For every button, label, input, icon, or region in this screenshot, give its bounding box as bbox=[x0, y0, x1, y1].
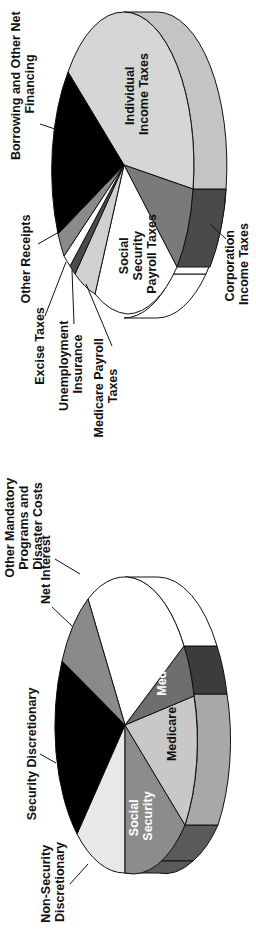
receipts-label-corporation: Corporation Income Taxes bbox=[223, 223, 251, 305]
receipts-label-unemployment: Unemployment Insurance bbox=[57, 317, 85, 411]
receipts-label-excise: Excise Taxes bbox=[33, 307, 47, 385]
outlays-label-non-security: Non-Security Discretionary bbox=[39, 841, 67, 922]
receipts-label-individual: Individual Income Taxes bbox=[123, 53, 151, 135]
receipts-label-other-receipts: Other Receipts bbox=[19, 214, 33, 303]
receipts-leader-other-receipts bbox=[38, 232, 59, 244]
outlays-label-medicaid: Medicaid bbox=[155, 642, 169, 696]
receipts-label-borrowing: Borrowing and Other Net Financing bbox=[9, 8, 37, 160]
outlays-label-security-discretionary: Security Discretionary bbox=[25, 688, 39, 821]
outlays-label-net-interest: Net Interest bbox=[39, 534, 53, 604]
receipts-label-medicare-payroll: Medicare Payroll Taxes bbox=[92, 335, 120, 438]
receipts-leader-unemployment bbox=[72, 270, 74, 324]
outlays-label-medicare: Medicare bbox=[165, 707, 179, 761]
rotated-chart-stage: Social Security Medicare Medicaid Other … bbox=[0, 0, 256, 934]
outlays-leader-net-interest bbox=[52, 607, 72, 626]
receipts-pie: Individual Income Taxes Social Security … bbox=[9, 8, 251, 437]
pie-charts-svg: Social Security Medicare Medicaid Other … bbox=[0, 0, 256, 934]
outlays-leader-other bbox=[55, 559, 80, 574]
receipts-leader-borrowing bbox=[40, 124, 55, 129]
outlays-leader-security bbox=[40, 754, 56, 763]
outlays-pie: Social Security Medicare Medicaid Other … bbox=[3, 474, 231, 922]
outlays-label-social-security: Social Security bbox=[127, 791, 155, 840]
outlays-leader-non-security bbox=[70, 864, 88, 884]
receipts-leader-excise bbox=[45, 262, 66, 316]
